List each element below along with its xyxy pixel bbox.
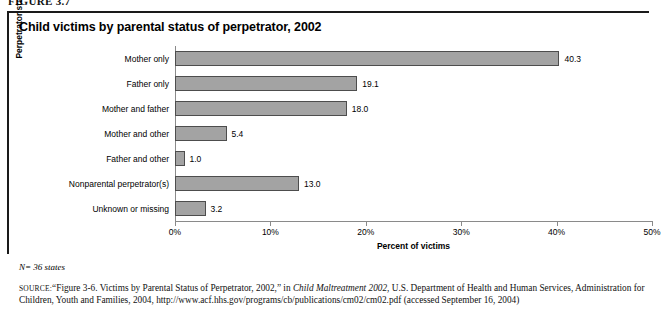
- category-label: Mother and father: [102, 104, 169, 114]
- source-part1: “Figure 3-6. Victims by Parental Status …: [52, 283, 293, 293]
- bar: [175, 76, 357, 91]
- x-tick: [461, 221, 462, 226]
- category-label: Unknown or missing: [92, 204, 169, 214]
- bar: [175, 126, 227, 141]
- bar-row: Father only19.1: [175, 71, 652, 96]
- x-tick: [175, 221, 176, 226]
- bar-value-label: 19.1: [362, 79, 379, 89]
- bar: [175, 176, 299, 191]
- bar: [175, 201, 206, 216]
- x-tick: [652, 221, 653, 226]
- bar-row: Unknown or missing3.2: [175, 196, 652, 221]
- bar-value-label: 5.4: [232, 129, 244, 139]
- bar-row: Mother and other5.4: [175, 121, 652, 146]
- x-tick-label: 30%: [453, 227, 470, 237]
- chart-title: Child victims by parental status of perp…: [19, 20, 321, 34]
- x-axis-title: Percent of victims: [175, 241, 652, 251]
- plot-area: Mother only40.3Father only19.1Mother and…: [175, 46, 652, 221]
- x-tick: [270, 221, 271, 226]
- bar-value-label: 1.0: [190, 154, 202, 164]
- x-tick-label: 50%: [643, 227, 660, 237]
- category-label: Mother only: [125, 54, 169, 64]
- bar: [175, 51, 559, 66]
- bar-value-label: 40.3: [564, 54, 581, 64]
- source-prefix: SOURCE:: [19, 284, 52, 293]
- x-tick-label: 40%: [548, 227, 565, 237]
- x-axis-line: [175, 221, 652, 222]
- bar: [175, 151, 185, 166]
- x-tick: [366, 221, 367, 226]
- x-tick-label: 10%: [262, 227, 279, 237]
- bar-row: Mother only40.3: [175, 46, 652, 71]
- bar-row: Nonparental perpetrator(s)13.0: [175, 171, 652, 196]
- bar: [175, 101, 347, 116]
- category-label: Father only: [126, 79, 169, 89]
- y-axis-title: Perpetrator status: [14, 0, 24, 82]
- category-label: Nonparental perpetrator(s): [69, 179, 169, 189]
- x-tick-label: 0%: [169, 227, 181, 237]
- source-publication-title: Child Maltreatment 2002: [293, 283, 387, 293]
- bar-value-label: 13.0: [304, 179, 321, 189]
- x-tick: [557, 221, 558, 226]
- category-label: Father and other: [106, 154, 169, 164]
- x-tick-label: 20%: [357, 227, 374, 237]
- category-label: Mother and other: [104, 129, 169, 139]
- bar-row: Father and other1.0: [175, 146, 652, 171]
- bar-value-label: 18.0: [352, 104, 369, 114]
- sample-size-note: N= 36 states: [19, 262, 65, 272]
- source-citation: SOURCE:“Figure 3-6. Victims by Parental …: [19, 283, 664, 306]
- bar-row: Mother and father18.0: [175, 96, 652, 121]
- bar-value-label: 3.2: [211, 204, 223, 214]
